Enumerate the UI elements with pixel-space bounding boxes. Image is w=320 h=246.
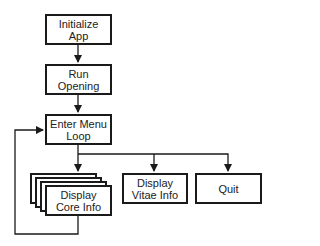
quit-node: Quit bbox=[195, 173, 262, 204]
initialize-app-node: Initialize App bbox=[45, 14, 112, 45]
display-core-info-node: Display Core Info bbox=[45, 185, 112, 216]
enter-menu-loop-node: Enter Menu Loop bbox=[45, 114, 112, 145]
run-opening-node: Run Opening bbox=[45, 64, 112, 95]
display-vitae-info-node: Display Vitae Info bbox=[122, 173, 188, 204]
